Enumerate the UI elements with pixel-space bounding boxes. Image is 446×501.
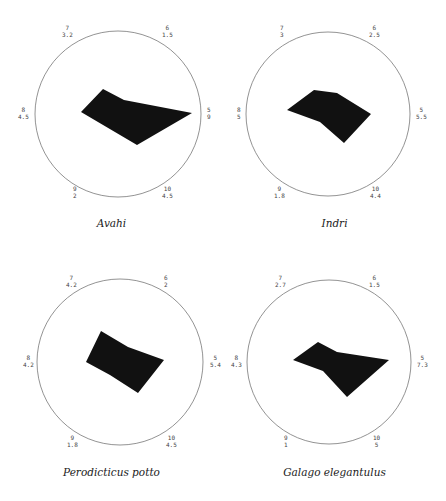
axis-label-9: 9 1.8	[274, 186, 285, 199]
axis-label-10: 10 4.5	[162, 186, 173, 199]
axis-label-5: 5 5.4	[210, 355, 221, 368]
axis-label-6: 6 1.5	[369, 275, 380, 288]
axis-label-7: 7 2.7	[275, 275, 286, 288]
chart-caption: Indri	[223, 217, 446, 229]
axis-label-9: 9 1.8	[67, 435, 78, 448]
axis-label-9: 9 2	[73, 186, 77, 199]
axis-label-7: 7 3	[280, 25, 284, 38]
axis-label-10: 10 4.4	[370, 186, 381, 199]
radar-panel-galago-elegantulus: 7 2.7 6 1.5 8 4.3 5 7.3 9 1 10 5 Galago …	[223, 250, 446, 500]
radar-shape	[81, 89, 192, 145]
radar-shape	[293, 342, 389, 397]
axis-label-6: 6 2	[164, 275, 168, 288]
radar-chart-galago-elegantulus	[223, 250, 446, 500]
axis-label-6: 6 1.5	[162, 25, 173, 38]
radar-chart-indri	[223, 0, 446, 250]
radar-panel-perodicticus-potto: 7 4.2 6 2 8 4.2 5 5.4 9 1.8 10 4.5 Perod…	[0, 250, 223, 500]
axis-label-5: 5 7.3	[417, 355, 428, 368]
chart-caption: Perodicticus potto	[0, 466, 223, 478]
axis-label-7: 7 3.2	[62, 25, 73, 38]
radar-shape	[287, 90, 371, 143]
axis-label-8: 8 4.5	[18, 107, 29, 120]
axis-label-10: 10 4.5	[166, 435, 177, 448]
axis-label-9: 9 1	[284, 435, 288, 448]
radar-shape	[86, 331, 164, 393]
radar-panel-indri: 7 3 6 2.5 8 5 5 5.5 9 1.8 10 4.4 Indri	[223, 0, 446, 250]
axis-label-7: 7 4.2	[66, 275, 77, 288]
axis-label-6: 6 2.5	[369, 25, 380, 38]
axis-label-8: 8 4.2	[23, 355, 34, 368]
radar-panel-avahi: 7 3.2 6 1.5 8 4.5 5 9 9 2 10 4.5 Avahi	[0, 0, 223, 250]
radar-chart-perodicticus-potto	[0, 250, 223, 500]
axis-label-5: 5 9	[207, 107, 211, 120]
axis-label-10: 10 5	[373, 435, 380, 448]
radar-chart-avahi	[0, 0, 223, 250]
axis-label-8: 8 4.3	[231, 355, 242, 368]
chart-caption: Avahi	[0, 217, 223, 229]
chart-caption: Galago elegantulus	[223, 466, 446, 478]
axis-label-5: 5 5.5	[416, 107, 427, 120]
axis-label-8: 8 5	[237, 107, 241, 120]
